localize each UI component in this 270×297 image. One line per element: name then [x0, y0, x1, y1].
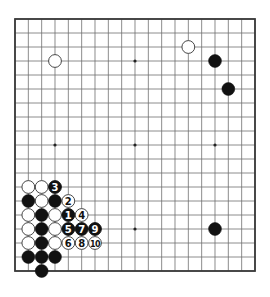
move-number: 1: [65, 210, 72, 221]
move-number: 3: [52, 182, 59, 193]
move-4-white-stone: 4: [75, 209, 88, 222]
white-stone: [49, 209, 62, 222]
black-stone: [209, 55, 222, 68]
black-stone: [209, 223, 222, 236]
black-stone: [35, 223, 48, 236]
go-board-diagram: 12345678910: [0, 0, 270, 297]
black-stone: [35, 209, 48, 222]
white-stone: [35, 195, 48, 208]
move-7-black-stone: 7: [75, 223, 88, 236]
black-stone: [22, 251, 35, 264]
white-stone: [49, 223, 62, 236]
black-stone: [35, 265, 48, 278]
black-stone: [222, 83, 235, 96]
white-stone: [35, 181, 48, 194]
black-stone: [35, 237, 48, 250]
move-number: 2: [65, 196, 72, 207]
move-number: 8: [78, 238, 85, 249]
move-1-black-stone: 1: [62, 209, 75, 222]
move-2-white-stone: 2: [62, 195, 75, 208]
white-stone: [49, 237, 62, 250]
white-stone: [49, 55, 62, 68]
move-number: 7: [78, 224, 85, 235]
move-number: 6: [65, 238, 72, 249]
white-stone: [22, 209, 35, 222]
white-stone: [182, 41, 195, 54]
move-number: 9: [92, 224, 99, 235]
star-point: [133, 143, 136, 146]
white-stone: [22, 223, 35, 236]
go-board: 12345678910: [0, 0, 270, 297]
black-stone: [49, 195, 62, 208]
white-stone: [22, 237, 35, 250]
move-5-black-stone: 5: [62, 223, 75, 236]
move-10-white-stone: 10: [89, 237, 102, 250]
star-point: [213, 143, 216, 146]
move-6-white-stone: 6: [62, 237, 75, 250]
move-9-black-stone: 9: [89, 223, 102, 236]
star-point: [53, 143, 56, 146]
star-point: [133, 227, 136, 230]
move-number: 10: [90, 240, 101, 249]
star-point: [133, 59, 136, 62]
white-stone: [22, 181, 35, 194]
black-stone: [22, 195, 35, 208]
move-number: 4: [78, 210, 85, 221]
move-8-white-stone: 8: [75, 237, 88, 250]
move-number: 5: [65, 224, 72, 235]
move-3-black-stone: 3: [49, 181, 62, 194]
black-stone: [49, 251, 62, 264]
black-stone: [35, 251, 48, 264]
